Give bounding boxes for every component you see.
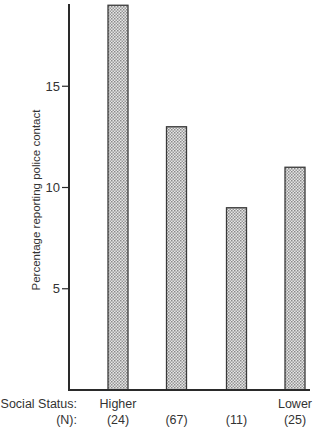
bar (227, 208, 247, 390)
social-status-label: Social Status: (1, 397, 77, 411)
y-axis-title: Percentage reporting police contact (30, 109, 42, 291)
n-value-label: (24) (107, 413, 129, 427)
y-axis-ticks: 51015 (46, 79, 69, 297)
n-value-label: (67) (165, 413, 187, 427)
n-value-label: (11) (226, 413, 247, 427)
bar (285, 167, 305, 390)
category-labels: Higher(24)(67)(11)Lower(25) (100, 397, 312, 427)
n-value-label: (25) (284, 413, 306, 427)
y-tick-label: 15 (46, 79, 60, 94)
y-tick-label: 5 (53, 281, 60, 296)
y-tick-label: 10 (46, 180, 60, 195)
bar-chart: Percentage reporting police contact 5101… (0, 0, 318, 432)
category-label: Higher (100, 397, 137, 411)
category-label: Lower (278, 397, 312, 411)
bar (167, 127, 187, 390)
bar (108, 5, 128, 390)
bars (108, 5, 305, 390)
n-label: (N): (56, 413, 77, 427)
